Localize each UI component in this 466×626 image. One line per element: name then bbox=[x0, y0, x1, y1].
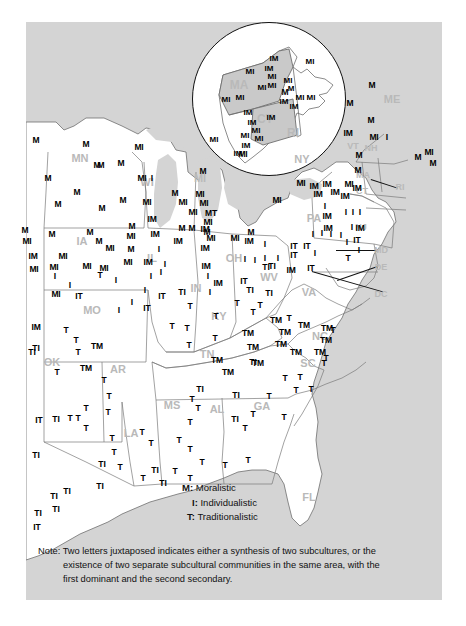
subculture-marker: I bbox=[158, 245, 160, 254]
subculture-marker: TM bbox=[247, 343, 259, 352]
subculture-marker: T bbox=[169, 322, 174, 331]
subculture-marker: T bbox=[172, 467, 177, 476]
legend: M: Moralistic I: Individualistic T: Trad… bbox=[176, 481, 326, 525]
subculture-marker: I bbox=[340, 231, 342, 240]
subculture-marker: MI bbox=[369, 133, 378, 142]
state-label-SC: SC bbox=[300, 358, 315, 369]
subculture-marker: MI bbox=[51, 290, 60, 299]
subculture-marker: IT bbox=[33, 523, 40, 532]
subculture-marker: I bbox=[314, 249, 316, 258]
state-label-ME: ME bbox=[384, 94, 401, 105]
subculture-marker: I bbox=[244, 255, 246, 264]
subculture-marker: MI bbox=[123, 258, 132, 267]
subculture-marker: IM bbox=[340, 192, 349, 201]
subculture-marker: T bbox=[106, 392, 111, 401]
subculture-marker: TM bbox=[211, 356, 223, 365]
subculture-marker: M bbox=[200, 167, 207, 176]
state-label-NY: NY bbox=[294, 154, 309, 165]
inset-subculture-marker: MI bbox=[268, 72, 277, 81]
subculture-marker: T bbox=[321, 359, 326, 368]
subculture-marker: I bbox=[330, 230, 332, 239]
subculture-marker: I bbox=[144, 286, 146, 295]
subculture-marker: T bbox=[176, 436, 181, 445]
subculture-marker: MI bbox=[29, 265, 38, 274]
subculture-marker: TM bbox=[270, 316, 282, 325]
state-label-MO: MO bbox=[83, 305, 101, 316]
subculture-marker: T bbox=[187, 418, 192, 427]
subculture-marker: IM bbox=[355, 224, 364, 233]
subculture-marker: I bbox=[160, 268, 162, 277]
subculture-marker: MI bbox=[58, 252, 67, 261]
subculture-marker: T bbox=[293, 386, 298, 395]
subculture-marker: T bbox=[75, 414, 80, 423]
subculture-marker: T bbox=[187, 302, 192, 311]
subculture-marker: TM bbox=[242, 329, 254, 338]
subculture-marker: I bbox=[54, 272, 56, 281]
subculture-marker: IT bbox=[35, 416, 42, 425]
inset-subculture-marker: MI bbox=[246, 67, 255, 76]
inset-state-RI: RI bbox=[287, 126, 299, 140]
subculture-marker: T bbox=[184, 324, 189, 333]
subculture-marker: I bbox=[164, 260, 166, 269]
subculture-marker: I bbox=[321, 229, 323, 238]
subculture-marker: TI bbox=[268, 262, 275, 271]
inset-subculture-marker: MI bbox=[236, 93, 245, 102]
subculture-marker: TI bbox=[196, 385, 203, 394]
subculture-marker: TI bbox=[151, 466, 158, 475]
subculture-marker: IT bbox=[290, 251, 297, 260]
leader-line-md bbox=[336, 250, 376, 251]
subculture-marker: I bbox=[150, 272, 152, 281]
state-label-VA: VA bbox=[302, 287, 316, 298]
state-label-RI: RI bbox=[396, 183, 405, 192]
subculture-marker: I bbox=[254, 256, 256, 265]
subculture-marker: M bbox=[356, 151, 363, 160]
state-label-IN: IN bbox=[191, 283, 202, 294]
subculture-marker: MI bbox=[126, 232, 135, 241]
subculture-marker: I bbox=[346, 238, 348, 247]
subculture-marker: M bbox=[430, 159, 437, 168]
subculture-marker: T bbox=[187, 445, 192, 454]
note-line-3: first dominant and the second secondary. bbox=[38, 573, 430, 587]
subculture-marker: T bbox=[117, 463, 122, 472]
state-label-MD: MD bbox=[374, 246, 388, 255]
subculture-marker: TI bbox=[232, 391, 239, 400]
subculture-marker: TI bbox=[249, 358, 256, 367]
subculture-marker: I bbox=[312, 230, 314, 239]
legend-key-i: I: bbox=[192, 496, 198, 511]
subculture-marker: T bbox=[63, 326, 68, 335]
subculture-marker: T bbox=[345, 254, 350, 263]
note-line-2: existence of two separate subcultural co… bbox=[38, 559, 430, 573]
subculture-marker: TM bbox=[320, 336, 332, 345]
subculture-marker: TI bbox=[63, 487, 70, 496]
subculture-marker: T bbox=[308, 385, 313, 394]
subculture-marker: T bbox=[250, 308, 255, 317]
subculture-marker: IM bbox=[343, 129, 352, 138]
subculture-marker: I bbox=[151, 174, 153, 183]
subculture-marker: IM bbox=[150, 230, 159, 239]
subculture-marker: T bbox=[250, 410, 255, 419]
subculture-marker: T bbox=[186, 341, 191, 350]
subculture-marker: IT bbox=[143, 304, 150, 313]
state-label-DE: DE bbox=[375, 263, 388, 272]
state-label-AR: AR bbox=[110, 364, 126, 375]
subculture-marker: T bbox=[282, 374, 287, 383]
subculture-marker: TI bbox=[246, 286, 253, 295]
subculture-marker: TI bbox=[96, 482, 103, 491]
subculture-marker: T bbox=[257, 301, 262, 310]
subculture-marker: M bbox=[179, 224, 186, 233]
subculture-marker: IT bbox=[290, 242, 297, 251]
subculture-marker: IM bbox=[352, 184, 361, 193]
inset-subculture-marker: IM bbox=[290, 102, 299, 111]
subculture-marker: IM bbox=[213, 279, 222, 288]
subculture-marker: TM bbox=[298, 321, 310, 330]
subculture-marker: T bbox=[54, 368, 59, 377]
subculture-marker: MI bbox=[134, 143, 143, 152]
subculture-marker: IM bbox=[143, 258, 152, 267]
subculture-marker: T bbox=[281, 413, 286, 422]
subculture-marker: TM bbox=[80, 364, 92, 373]
inset-subculture-marker: MI bbox=[255, 134, 264, 143]
subculture-marker: I bbox=[277, 254, 279, 263]
subculture-marker: TI bbox=[159, 479, 166, 488]
subculture-marker: MI bbox=[105, 244, 114, 253]
subculture-marker: M bbox=[120, 196, 127, 205]
